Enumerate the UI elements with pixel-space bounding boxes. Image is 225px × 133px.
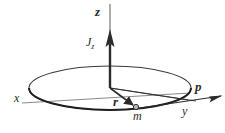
x-axis-label: x xyxy=(14,92,19,104)
angular-momentum-label: Jz xyxy=(86,36,94,48)
momentum-vector-label: p xyxy=(195,80,202,93)
momentum-vector-line xyxy=(140,96,221,108)
orbit-front-arc xyxy=(29,88,191,110)
mass-point-label: m xyxy=(133,110,142,122)
angular-momentum-subscript: z xyxy=(91,42,94,51)
momentum-arrowhead xyxy=(209,96,223,103)
z-axis-label: z xyxy=(95,5,100,18)
figure-canvas xyxy=(0,0,225,133)
y-axis-label: y xyxy=(182,105,187,117)
radius-vector-label: r xyxy=(113,95,118,108)
angular-momentum-figure: z Jz x y r m p xyxy=(0,0,225,133)
